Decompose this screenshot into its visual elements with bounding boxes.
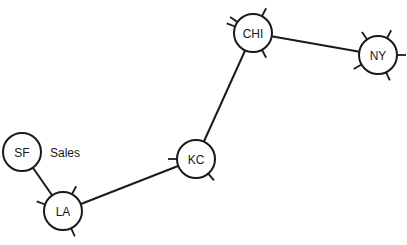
port-tick-la-1 [37, 201, 45, 204]
node-label-la: LA [56, 205, 71, 219]
node-kc[interactable]: KC [177, 140, 215, 178]
port-tick-chi-2 [227, 23, 235, 26]
node-label-sf: SF [14, 146, 29, 160]
node-chi[interactable]: CHI [234, 14, 272, 52]
edge-la-kc [63, 159, 196, 211]
nodes-layer: SFLAKCCHINY [3, 14, 397, 230]
edges-layer [22, 33, 378, 211]
edge-kc-chi [196, 33, 253, 159]
port-tick-ny-3 [354, 65, 362, 70]
node-sf[interactable]: SF [3, 133, 41, 171]
port-tick-ny-4 [386, 72, 390, 80]
port-tick-kc-1 [208, 174, 214, 181]
node-label-chi: CHI [243, 27, 264, 41]
annotations-layer: Sales [50, 146, 80, 160]
node-label-ny: NY [370, 49, 387, 63]
network-diagram: SFLAKCCHINY Sales [0, 0, 407, 245]
port-tick-la-0 [72, 186, 76, 194]
node-ny[interactable]: NY [359, 36, 397, 74]
port-tick-ny-0 [362, 32, 367, 39]
port-tick-chi-0 [230, 17, 237, 22]
port-tick-chi-1 [262, 8, 266, 16]
node-label-kc: KC [188, 153, 205, 167]
port-tick-chi-3 [262, 50, 266, 58]
port-tick-la-2 [71, 228, 75, 236]
annotation-sales: Sales [50, 146, 80, 160]
ticks-layer [37, 8, 406, 236]
node-la[interactable]: LA [44, 192, 82, 230]
port-tick-ny-1 [387, 30, 391, 38]
